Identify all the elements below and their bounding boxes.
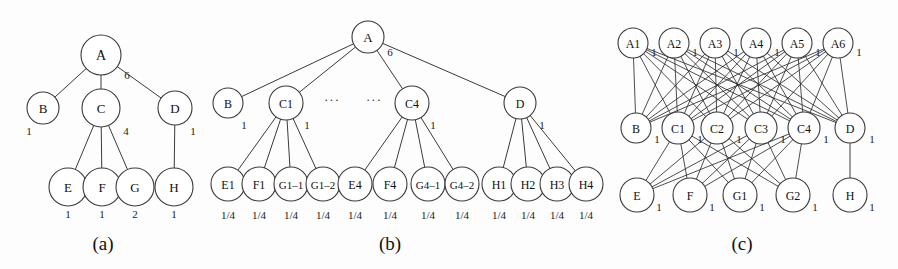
node-b-G4-1[interactable]: G4–1 [411, 167, 445, 201]
node-c-C4[interactable]: C4 [788, 112, 820, 144]
node-c-E[interactable]: E [620, 178, 654, 212]
edge-a-D-to-a-H [174, 124, 175, 168]
weight-label-b-H2: 1/4 [521, 209, 536, 221]
node-c-G2[interactable]: G2 [776, 178, 810, 212]
edge-b-D-to-b-H1 [503, 118, 516, 168]
edge-b-C1-to-b-G1-1 [287, 119, 290, 167]
weight-label-c-C2: 1 [736, 133, 742, 145]
node-c-F[interactable]: F [673, 178, 707, 212]
node-b-H4[interactable]: H4 [569, 167, 603, 201]
node-label-b-F4: F4 [384, 178, 397, 192]
node-b-G4-2[interactable]: G4–2 [445, 167, 479, 201]
node-c-A2[interactable]: A2 [659, 28, 689, 58]
node-b-E4[interactable]: E4 [338, 167, 372, 201]
node-c-A6[interactable]: A6 [823, 28, 853, 58]
node-a-B[interactable]: B [27, 92, 59, 124]
node-label-c-E: E [633, 189, 640, 203]
node-label-b-H3: H3 [550, 178, 565, 192]
edge-c-C1-to-c-E [646, 141, 670, 181]
node-c-D[interactable]: D [835, 113, 865, 143]
captions-layer: (a)(b)(c) [92, 233, 752, 255]
weight-label-b-E4: 1/4 [348, 209, 363, 221]
weight-label-c-A6: 1 [856, 46, 862, 58]
weight-label-c-A3: 1 [733, 46, 739, 58]
node-label-c-G2: G2 [786, 189, 801, 203]
node-a-E[interactable]: E [49, 168, 87, 206]
edge-b-C1-to-b-F1 [264, 119, 281, 169]
node-b-F4[interactable]: F4 [373, 167, 407, 201]
node-label-a-H: H [169, 180, 178, 195]
node-a-A[interactable]: A [81, 35, 121, 75]
node-c-A4[interactable]: A4 [741, 28, 771, 58]
node-c-A3[interactable]: A3 [700, 28, 730, 58]
weight-label-b-H3: 1/4 [550, 209, 565, 221]
node-c-B[interactable]: B [621, 113, 651, 143]
node-label-b-H4: H4 [579, 178, 594, 192]
edge-b-C4-to-b-G4-1 [415, 119, 425, 168]
node-b-G1-2[interactable]: G1–2 [306, 167, 340, 201]
node-label-c-A2: A2 [667, 37, 682, 51]
node-label-c-A6: A6 [831, 37, 846, 51]
node-a-H[interactable]: H [155, 168, 193, 206]
node-label-b-C4: C4 [405, 97, 419, 111]
weight-label-c-E: 1 [656, 201, 662, 213]
weight-label-a-F: 1 [99, 208, 105, 220]
node-c-G1[interactable]: G1 [723, 178, 757, 212]
node-label-b-E4: E4 [348, 178, 361, 192]
node-a-D[interactable]: D [158, 91, 192, 125]
node-label-b-G4-1: G4–1 [416, 179, 440, 191]
edge-a-C-to-a-F [101, 126, 102, 168]
weight-label-a-G: 2 [132, 208, 138, 220]
edge-c-A4-to-c-B [648, 51, 744, 119]
node-label-a-F: F [98, 180, 105, 195]
edge-c-A6-to-c-D [840, 57, 848, 113]
node-label-c-B: B [632, 122, 640, 136]
node-label-c-G1: G1 [733, 189, 748, 203]
weight-label-b-C4: 1 [430, 119, 436, 131]
node-label-c-A3: A3 [708, 37, 723, 51]
weight-label-c-G1: 1 [759, 201, 765, 213]
node-label-c-A1: A1 [626, 37, 641, 51]
node-b-C1[interactable]: C1 [269, 86, 303, 120]
node-b-F1[interactable]: F1 [242, 167, 276, 201]
caption-b: (b) [379, 233, 401, 255]
node-c-H[interactable]: H [833, 178, 867, 212]
nodes-layer: ABCDEFGHABC1C4DE1F1G1–1G1–2E4F4G4–1G4–2H… [27, 21, 867, 212]
weight-label-a-H: 1 [171, 208, 177, 220]
node-c-C3[interactable]: C3 [745, 112, 777, 144]
node-label-c-A4: A4 [749, 37, 764, 51]
edge-c-A5-to-c-D [805, 55, 843, 115]
weight-label-b-G4-2: 1/4 [455, 209, 470, 221]
node-c-C2[interactable]: C2 [701, 112, 733, 144]
weight-label-c-A5: 1 [815, 46, 821, 58]
weight-label-b-C1: 1 [304, 119, 310, 131]
node-c-A5[interactable]: A5 [782, 28, 812, 58]
node-label-b-G1-2: G1–2 [311, 179, 335, 191]
node-label-b-H2: H2 [521, 178, 536, 192]
node-a-C[interactable]: C [82, 89, 120, 127]
weight-label-b-G1-2: 1/4 [316, 209, 331, 221]
node-a-G[interactable]: G [116, 168, 154, 206]
node-b-A[interactable]: A [352, 21, 384, 53]
edge-c-A4-to-c-C2 [723, 56, 749, 114]
node-b-E1[interactable]: E1 [211, 167, 245, 201]
node-label-c-H: H [846, 189, 855, 203]
edge-b-A-to-b-C1 [299, 47, 356, 93]
node-c-C1[interactable]: C1 [662, 112, 694, 144]
weight-label-b-F4: 1/4 [383, 209, 398, 221]
node-c-A1[interactable]: A1 [618, 28, 648, 58]
node-b-D[interactable]: D [504, 87, 536, 119]
node-b-C4[interactable]: C4 [395, 86, 429, 120]
edge-a-A-to-a-B [54, 68, 86, 97]
node-b-G1-1[interactable]: G1–1 [274, 167, 308, 201]
node-b-B[interactable]: B [213, 88, 243, 118]
edge-b-A-to-b-B [241, 44, 354, 97]
edge-b-D-to-b-H4 [530, 115, 576, 171]
caption-a: (a) [92, 233, 113, 255]
caption-c: (c) [731, 233, 752, 255]
node-a-F[interactable]: F [83, 168, 121, 206]
edge-a-C-to-a-E [75, 125, 94, 170]
edge-b-C4-to-b-E4 [364, 116, 402, 170]
node-label-b-A: A [363, 30, 373, 45]
weight-label-a-A: 6 [124, 69, 130, 81]
